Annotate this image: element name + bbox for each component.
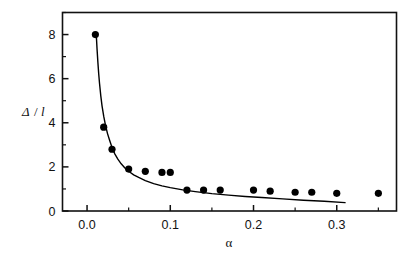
y-tick-label: 4: [49, 116, 56, 130]
scatter-plot: 0.00.10.20.3 02468 α Δ / l: [0, 0, 410, 255]
data-point: [200, 186, 207, 193]
chart-figure: 0.00.10.20.3 02468 α Δ / l: [0, 0, 410, 255]
x-tick-label: 0.0: [78, 218, 95, 232]
x-tick-label: 0.2: [245, 218, 262, 232]
x-tick-label: 0.3: [328, 218, 345, 232]
data-point: [333, 190, 340, 197]
x-tick-label: 0.1: [162, 218, 179, 232]
data-point: [92, 31, 99, 38]
data-point: [250, 186, 257, 193]
data-point: [267, 188, 274, 195]
data-point: [308, 189, 315, 196]
y-axis-title-separator: /: [34, 104, 38, 119]
data-point: [108, 146, 115, 153]
data-point: [375, 190, 382, 197]
data-point: [217, 186, 224, 193]
data-point: [100, 124, 107, 131]
y-tick-label: 8: [49, 28, 56, 42]
data-point: [292, 189, 299, 196]
x-axis-title: α: [226, 235, 233, 250]
data-point: [183, 186, 190, 193]
data-point: [142, 168, 149, 175]
data-point: [125, 165, 132, 172]
plot-background: [0, 0, 410, 255]
y-tick-label: 6: [49, 72, 56, 86]
y-axis-title-denominator: l: [41, 104, 45, 119]
y-tick-label: 0: [49, 205, 56, 219]
data-point: [167, 169, 174, 176]
data-point: [158, 169, 165, 176]
y-axis-title-numerator: Δ: [21, 104, 30, 119]
y-tick-label: 2: [49, 160, 56, 174]
